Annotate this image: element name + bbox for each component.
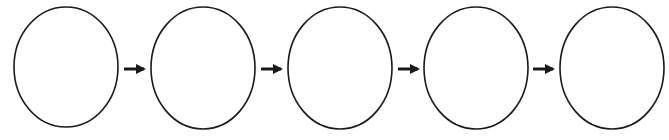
stage-ellipse-1 (14, 7, 118, 127)
flow-diagram (0, 0, 669, 140)
stage-nodes (14, 7, 664, 129)
stage-ellipse-3 (288, 7, 392, 129)
stage-ellipse-4 (424, 7, 528, 129)
stage-ellipse-5 (560, 7, 664, 129)
stage-ellipse-2 (151, 7, 255, 129)
